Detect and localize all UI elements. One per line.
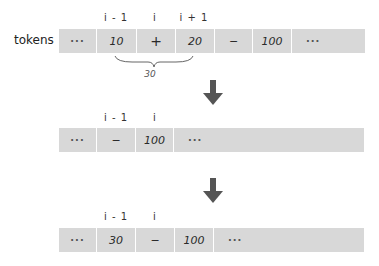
- index-label-i-minus-1: i - 1: [104, 211, 128, 222]
- index-label-i-plus-1: i + 1: [180, 12, 209, 23]
- token-cell-ellipsis-start: ···: [59, 29, 96, 53]
- token-cell-ellipsis-end: ···: [214, 228, 364, 252]
- token-cell-minus: −: [97, 128, 135, 152]
- token-cell-20: 20: [176, 29, 214, 53]
- token-cell-30: 30: [97, 228, 135, 252]
- token-cell-ellipsis-start: ···: [59, 228, 96, 252]
- index-label-i: i: [153, 112, 157, 123]
- token-cell-plus: +: [137, 29, 175, 53]
- token-cell-100: 100: [136, 128, 173, 152]
- token-cell-minus: −: [215, 29, 252, 53]
- tokens-row-label: tokens: [14, 33, 54, 47]
- token-cell-ellipsis-start: ···: [59, 128, 96, 152]
- token-cell-ellipsis-end: ···: [292, 29, 365, 53]
- arrow-down-icon: [202, 178, 224, 204]
- token-row-result: ··· 30 − 100 ···: [59, 228, 364, 252]
- arrow-down-icon: [202, 80, 224, 106]
- token-cell-ellipsis-end: ···: [174, 128, 364, 152]
- token-cell-10: 10: [97, 29, 136, 53]
- token-row-after-remove: ··· − 100 ···: [59, 128, 364, 152]
- token-cell-100: 100: [253, 29, 291, 53]
- curly-brace-icon: [112, 54, 196, 70]
- index-label-i: i: [153, 211, 157, 222]
- token-cell-100: 100: [175, 228, 213, 252]
- token-row-original: ··· 10 + 20 − 100 ···: [59, 29, 365, 53]
- token-cell-minus: −: [136, 228, 174, 252]
- brace-sum-label: 30: [144, 69, 155, 79]
- index-label-i: i: [153, 12, 157, 23]
- index-label-i-minus-1: i - 1: [104, 12, 128, 23]
- index-label-i-minus-1: i - 1: [104, 112, 128, 123]
